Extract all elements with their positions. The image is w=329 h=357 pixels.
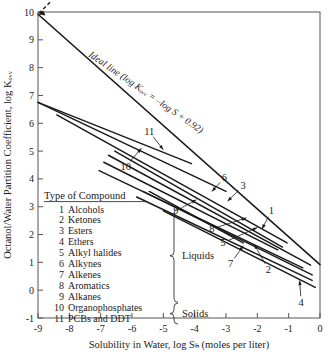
legend-item-number-9: 9 xyxy=(59,291,64,302)
legend-item-number-3: 3 xyxy=(59,225,64,236)
x-tick-label: -5 xyxy=(159,323,167,334)
y-tick-label: 10 xyxy=(24,7,34,18)
legend-item-name-10: Organophosphates xyxy=(68,302,142,313)
brace-solids xyxy=(170,303,178,324)
legend-item-number-8: 8 xyxy=(59,280,64,291)
legend-item-number-2: 2 xyxy=(59,214,64,225)
chart-figure: -9-8-7-6-5-4-3-2-10-1012345678910Solubil… xyxy=(0,0,329,357)
x-tick-label: -3 xyxy=(222,323,230,334)
callout-label-8: 8 xyxy=(209,223,214,234)
callout-label-4: 4 xyxy=(299,297,305,308)
brace-liquids xyxy=(170,209,178,302)
y-tick-label: 5 xyxy=(29,146,34,157)
callout-label-7: 7 xyxy=(228,258,233,269)
x-tick-label: -9 xyxy=(34,323,42,334)
legend-item-number-4: 4 xyxy=(59,236,64,247)
y-tick-label: 9 xyxy=(29,34,34,45)
y-axis-label: Octanol/Water Partition Coefficient, log… xyxy=(2,70,13,258)
y-tick-label: 3 xyxy=(29,201,34,212)
x-tick-label: -6 xyxy=(128,323,136,334)
series-line-10 xyxy=(38,102,226,191)
legend-group-solids: Solids xyxy=(182,308,208,319)
legend-item-name-1: Alcohols xyxy=(68,204,104,215)
y-tick-label: 1 xyxy=(29,257,34,268)
x-tick-label: -2 xyxy=(253,323,261,334)
legend-item-name-9: Alkanes xyxy=(68,291,101,302)
y-tick-label: -1 xyxy=(26,313,34,324)
x-tick-label: 0 xyxy=(318,323,323,334)
legend-item-number-6: 6 xyxy=(59,258,64,269)
legend-item-name-6: Alkynes xyxy=(68,258,101,269)
legend-item-number-1: 1 xyxy=(59,204,64,215)
y-tick-label: 8 xyxy=(29,62,34,73)
callout-label-1: 1 xyxy=(269,205,274,216)
callout-label-11: 11 xyxy=(144,126,154,137)
callout-label-3: 3 xyxy=(241,180,246,191)
callout-label-6: 6 xyxy=(222,172,227,183)
y-tick-label: 0 xyxy=(29,285,34,296)
legend-group-liquids: Liquids xyxy=(182,250,214,261)
legend-item-name-8: Aromatics xyxy=(68,280,110,291)
ideal-line-annotation: Ideal line (log Kₒᵥᵥ = –log S + 0.92) xyxy=(85,49,205,136)
callout-label-10: 10 xyxy=(120,161,131,172)
legend-item-name-4: Ethers xyxy=(68,236,94,247)
legend-item-number-11: 11 xyxy=(54,313,64,324)
legend-item-number-10: 10 xyxy=(54,302,64,313)
callout-label-5: 5 xyxy=(220,237,225,248)
legend-item-name-11: PCBs and DDT xyxy=(68,313,131,324)
ideal-line-dash xyxy=(40,2,51,13)
x-axis-label: Solubility in Water, log Sₕ (moles per l… xyxy=(89,339,270,351)
legend-item-name-5: Alkyl halides xyxy=(68,247,122,258)
y-tick-label: 7 xyxy=(29,90,34,101)
callout-label-2: 2 xyxy=(266,264,271,275)
legend-item-number-5: 5 xyxy=(59,247,64,258)
callout-arrow-1 xyxy=(262,224,266,229)
legend-item-name-7: Alkenes xyxy=(68,269,101,280)
x-tick-label: -7 xyxy=(96,323,104,334)
x-tick-label: -1 xyxy=(284,323,292,334)
legend-item-number-7: 7 xyxy=(59,269,64,280)
y-tick-label: 2 xyxy=(29,229,34,240)
x-tick-label: -4 xyxy=(190,323,198,334)
y-tick-label: 6 xyxy=(29,118,34,129)
series-line-3 xyxy=(109,155,311,265)
x-tick-label: -8 xyxy=(65,323,73,334)
chart-canvas: -9-8-7-6-5-4-3-2-10-1012345678910Solubil… xyxy=(0,0,329,357)
y-tick-label: 4 xyxy=(29,173,34,184)
legend-title: Type of Compound xyxy=(44,190,126,201)
legend-item-name-3: Esters xyxy=(68,225,93,236)
legend-item-name-2: Ketones xyxy=(68,214,101,225)
